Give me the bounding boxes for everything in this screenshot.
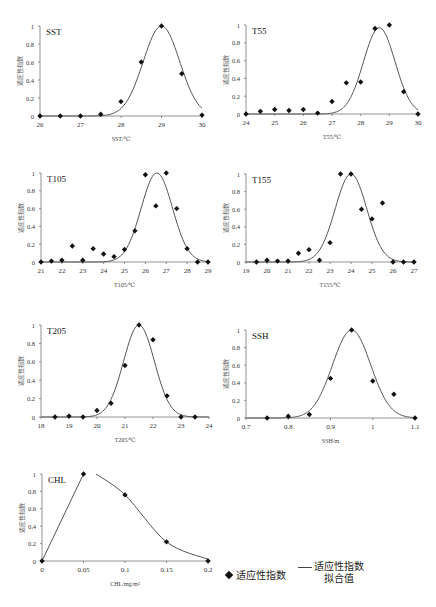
legend-fit-curve: 适应性指数 拟合值 (298, 561, 364, 585)
y-tick-label: 0.2 (27, 395, 35, 402)
x-tick-label: 28 (357, 119, 365, 127)
y-tick-label: 0 (32, 259, 35, 266)
y-axis-label: 适应性指数 (17, 356, 25, 386)
y-tick-label: 0.4 (27, 377, 36, 384)
legend-curve-label-2: 拟合值 (314, 573, 364, 585)
data-point (164, 170, 169, 175)
x-tick-label: 20 (94, 422, 102, 430)
y-tick-label: 1 (237, 171, 240, 178)
y-tick-label: 0.4 (232, 223, 241, 230)
x-tick-label: 0.1 (121, 566, 130, 574)
fit-curve (246, 174, 414, 262)
y-tick-label: 0.6 (27, 205, 36, 212)
data-point (52, 414, 57, 419)
data-point (411, 259, 416, 264)
data-point (174, 206, 179, 211)
data-point (358, 79, 363, 84)
y-tick-label: 1 (32, 322, 35, 329)
chart-title: T155 (252, 175, 271, 185)
y-tick-label: 0.4 (27, 223, 36, 230)
data-point (327, 240, 332, 245)
data-point (101, 251, 106, 256)
x-tick-label: 22 (306, 267, 314, 275)
x-tick-label: 24 (348, 267, 356, 275)
x-tick-label: 23 (79, 267, 87, 275)
data-point (118, 99, 123, 104)
diamond-marker-icon (225, 570, 233, 578)
data-point (349, 327, 354, 332)
x-tick-label: 26 (37, 121, 45, 129)
data-point (329, 99, 334, 104)
x-tick-label: 0.7 (242, 423, 251, 431)
x-tick-label: 22 (150, 422, 158, 430)
data-point (370, 378, 375, 383)
data-point (243, 111, 248, 116)
x-tick-label: 21 (285, 267, 293, 275)
chart-title: T205 (47, 326, 66, 336)
y-tick-label: 0.8 (232, 188, 240, 195)
y-tick-label: 0.2 (232, 93, 240, 100)
data-point (412, 415, 417, 420)
y-tick-label: 0.2 (232, 241, 240, 248)
data-point (359, 207, 364, 212)
y-tick-label: 0.8 (27, 187, 35, 194)
data-point (415, 111, 420, 116)
data-point (306, 247, 311, 252)
data-point (258, 109, 263, 114)
x-tick-label: 30 (415, 119, 423, 127)
y-tick-label: 0.2 (27, 241, 35, 248)
data-point (108, 401, 113, 406)
x-tick-label: 20 (264, 267, 272, 275)
x-tick-label: 26 (390, 267, 398, 275)
y-tick-label: 0.6 (27, 358, 36, 365)
y-tick-label: 1 (237, 327, 240, 334)
chart-chl: 00.20.40.60.8100.050.10.150.2CHL/mg/m³适应… (16, 466, 222, 591)
data-point (80, 414, 85, 419)
x-axis-label: T205/℃ (114, 437, 135, 443)
data-point (401, 259, 406, 264)
data-point (91, 246, 96, 251)
y-axis-label: 适应性指数 (17, 203, 25, 233)
y-tick-label: 1 (32, 170, 35, 177)
x-tick-label: 23 (327, 267, 335, 275)
data-point (348, 171, 353, 176)
data-point (372, 26, 377, 31)
y-tick-label: 0.6 (232, 362, 241, 369)
data-point (380, 200, 385, 205)
data-point (37, 113, 42, 118)
x-tick-label: 24 (100, 267, 108, 275)
x-tick-label: 0.2 (204, 566, 213, 574)
y-tick-label: 0.2 (28, 540, 36, 547)
y-tick-label: 0.8 (26, 41, 34, 48)
x-axis-label: SST/℃ (112, 136, 131, 142)
line-marker-icon (298, 567, 312, 568)
x-tick-label: 26 (300, 119, 308, 127)
chart-t105: 00.20.40.60.81212223242526272829T105/℃适应… (15, 165, 222, 292)
legend-points-label: 适应性指数 (236, 567, 286, 582)
x-axis-label: CHL/mg/m³ (110, 581, 140, 587)
x-tick-label: 27 (329, 119, 337, 127)
x-tick-label: 29 (205, 267, 213, 275)
data-point (338, 171, 343, 176)
data-point (38, 259, 43, 264)
data-point (301, 107, 306, 112)
y-tick-label: 1 (237, 22, 240, 29)
chart-title: T55 (252, 26, 267, 36)
data-point (391, 392, 396, 397)
data-point (315, 110, 320, 115)
fit-curve (246, 330, 415, 418)
data-point (150, 337, 155, 342)
x-tick-label: 30 (199, 121, 207, 129)
x-tick-label: 27 (163, 267, 171, 275)
chart-title: CHL (48, 475, 66, 485)
x-tick-label: 27 (411, 267, 419, 275)
chart-ssh: 00.20.40.60.810.70.80.911.1SSH/m适应性指数SSH (220, 322, 429, 448)
data-point (254, 259, 259, 264)
y-tick-label: 0 (33, 558, 36, 565)
data-point (205, 259, 210, 264)
y-tick-label: 0.2 (26, 95, 34, 102)
y-axis-label: 适应性指数 (18, 503, 26, 533)
data-point (199, 112, 204, 117)
y-tick-label: 0.4 (232, 379, 241, 386)
data-point (275, 258, 280, 263)
